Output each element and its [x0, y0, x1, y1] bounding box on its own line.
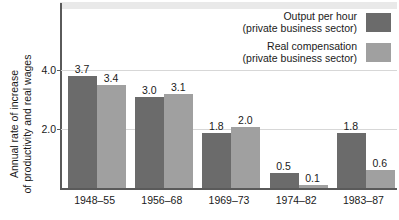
y-tick-label-2-wrap: 2.0: [26, 124, 56, 135]
bar-chart-figure: Annual rate of increase of productivity …: [0, 0, 399, 220]
bar-output-per-hour[interactable]: [68, 76, 97, 188]
bar-real-compensation[interactable]: [366, 170, 395, 188]
bar-output-per-hour[interactable]: [135, 97, 164, 188]
bar-real-compensation[interactable]: [231, 127, 260, 188]
y-axis-title-line-1: Annual rate of increase: [8, 70, 21, 178]
bar-output-per-hour[interactable]: [337, 133, 366, 188]
legend-label-line-2: (private business sector): [243, 52, 357, 64]
legend-label-line-1: Output per hour: [283, 10, 357, 22]
chart-legend: Output per hour (private business sector…: [196, 10, 391, 70]
legend-label-real-compensation: Real compensation (private business sect…: [243, 40, 357, 64]
legend-item-real-compensation[interactable]: Real compensation (private business sect…: [196, 40, 391, 64]
bar-group-0: 3.7 3.4: [61, 3, 128, 188]
y-tick-label-2: 2.0: [30, 124, 56, 135]
bar-real-compensation[interactable]: [299, 185, 328, 188]
x-axis-line: [60, 188, 397, 190]
bar-value-label: 3.1: [161, 82, 195, 93]
bar-value-label: 1.8: [334, 121, 368, 132]
bar-value-label: 0.6: [363, 158, 397, 169]
legend-swatch-real-compensation: [366, 43, 391, 62]
legend-item-output-per-hour[interactable]: Output per hour (private business sector…: [196, 10, 391, 34]
y-tick-label-4-wrap: 4.0: [26, 65, 56, 76]
bar-output-per-hour[interactable]: [270, 173, 299, 188]
bar-real-compensation[interactable]: [164, 94, 193, 188]
bar-value-label: 2.0: [228, 115, 262, 126]
bar-value-label: 3.4: [94, 73, 128, 84]
legend-label-line-2: (private business sector): [243, 22, 357, 34]
bar-real-compensation[interactable]: [97, 85, 126, 188]
x-category-label-4: 1983–87: [320, 194, 399, 206]
legend-label-line-1: Real compensation: [267, 40, 357, 52]
y-tick-label-4: 4.0: [30, 65, 56, 76]
legend-swatch-output-per-hour: [366, 13, 391, 32]
bar-group-1: 3.0 3.1: [128, 3, 195, 188]
bar-output-per-hour[interactable]: [202, 133, 231, 188]
bar-value-label: 0.5: [267, 161, 301, 172]
bar-value-label: 0.1: [296, 173, 330, 184]
legend-label-output-per-hour: Output per hour (private business sector…: [243, 10, 357, 34]
